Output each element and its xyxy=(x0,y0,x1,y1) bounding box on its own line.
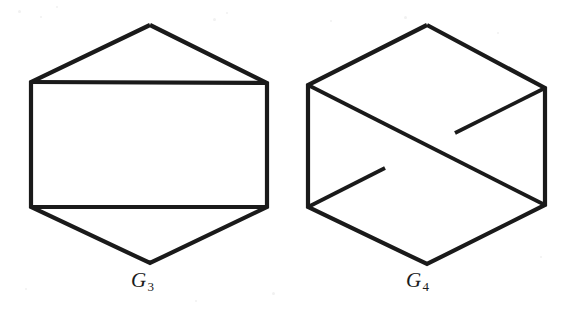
g4-edges xyxy=(308,25,545,264)
g4-anti-diagonal-lower-segment xyxy=(308,168,385,207)
figure-caption-g3-letter: G xyxy=(131,268,146,292)
figure-g4-drawing xyxy=(0,0,574,315)
figure-caption-g4-subscript: 4 xyxy=(422,279,429,294)
g4-anti-diagonal-upper-segment xyxy=(455,88,545,133)
figure-caption-g3-subscript: 3 xyxy=(147,279,154,294)
figure-plate: G3 G4 xyxy=(0,0,574,315)
figure-caption-g3: G3 xyxy=(131,268,153,293)
figure-caption-g4-letter: G xyxy=(406,268,421,292)
figure-caption-g4: G4 xyxy=(406,268,428,293)
